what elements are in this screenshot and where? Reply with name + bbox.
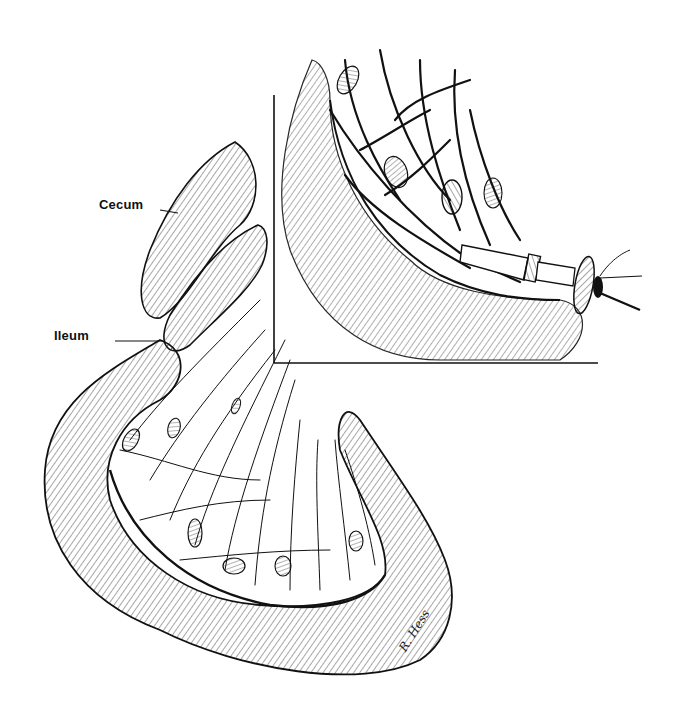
lymph-node xyxy=(349,531,363,551)
lymph-node xyxy=(230,397,243,415)
lymph-node xyxy=(166,417,183,439)
lymph-node xyxy=(275,556,291,576)
lymph-node xyxy=(188,519,202,547)
anatomical-illustration xyxy=(0,0,675,711)
inset-bowel xyxy=(282,60,583,360)
inset-panel xyxy=(274,50,642,363)
lymph-node xyxy=(442,180,462,214)
main-lymph-nodes xyxy=(119,397,363,576)
ileum-loop-illustration xyxy=(45,340,452,674)
cecum-label: Cecum xyxy=(99,197,143,212)
lymph-node xyxy=(484,178,502,208)
lymph-node xyxy=(333,63,364,98)
lymph-node xyxy=(223,558,245,574)
ileum-label: Ileum xyxy=(54,328,89,343)
cecum-illustration xyxy=(141,142,267,351)
